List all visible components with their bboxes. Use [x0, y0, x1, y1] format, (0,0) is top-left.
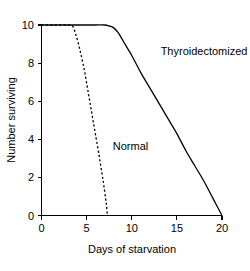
x-tick-label: 0	[38, 222, 44, 234]
x-tick-label: 10	[126, 222, 138, 234]
x-axis-title: Days of starvation	[88, 243, 176, 255]
y-tick-label: 0	[28, 210, 34, 222]
series-label-thyroidectomized: Thyroidectomized	[161, 45, 248, 57]
survival-curve-figure: 0 2 4 6 8 10 0 5 10 15 20 Days of starva…	[0, 0, 250, 271]
series-label-normal: Normal	[113, 140, 148, 152]
x-tick-label: 5	[84, 222, 90, 234]
x-tick-label: 15	[171, 222, 183, 234]
y-tick-label: 2	[28, 171, 34, 183]
x-tick-label: 20	[216, 222, 228, 234]
y-tick-label: 6	[28, 95, 34, 107]
y-tick-label: 4	[28, 133, 34, 145]
chart-canvas: 0 2 4 6 8 10 0 5 10 15 20 Days of starva…	[0, 0, 250, 271]
series-line-normal	[42, 25, 108, 216]
y-tick-label: 10	[22, 19, 34, 31]
y-axis-tick-labels: 0 2 4 6 8 10	[22, 19, 34, 222]
x-axis-tick-labels: 0 5 10 15 20	[38, 222, 228, 234]
y-tick-label: 8	[28, 57, 34, 69]
y-axis-title: Number surviving	[5, 77, 17, 163]
